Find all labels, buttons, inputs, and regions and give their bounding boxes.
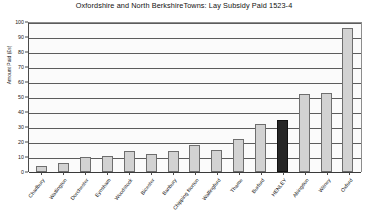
bar-slot	[53, 23, 75, 172]
y-tick-label: 70	[18, 64, 24, 70]
bar-slot	[206, 23, 228, 172]
bar[interactable]	[58, 163, 69, 172]
x-tick-mark	[283, 172, 284, 175]
bar[interactable]	[255, 124, 266, 172]
bar-slot	[118, 23, 140, 172]
bar[interactable]	[80, 157, 91, 172]
x-tick-label: Bicester	[139, 177, 156, 196]
x-tick-label: Eynsham	[93, 177, 111, 198]
x-tick-mark	[195, 172, 196, 175]
x-tick-label: Charlbury	[27, 177, 46, 199]
bar[interactable]	[299, 94, 310, 172]
x-tick-mark	[151, 172, 152, 175]
x-tick-mark	[349, 172, 350, 175]
bar[interactable]	[211, 150, 222, 173]
x-tick-label: Abingdon	[291, 177, 309, 198]
x-label-slot: Wallingford	[206, 176, 228, 217]
y-tick-label: 60	[18, 79, 24, 85]
x-tick-label: Burford	[250, 177, 265, 194]
x-tick-mark	[129, 172, 130, 175]
y-tick-label: 90	[18, 34, 24, 40]
x-tick-label: Witney	[317, 177, 332, 193]
bar-slot	[228, 23, 250, 172]
y-tick-label: 10	[18, 154, 24, 160]
y-tick-label: 40	[18, 109, 24, 115]
x-tick-mark	[41, 172, 42, 175]
y-tick-label: 50	[18, 94, 24, 100]
x-label-slot: Abingdon	[294, 176, 316, 217]
bar-slot	[337, 23, 359, 172]
x-tick-mark	[217, 172, 218, 175]
x-tick-mark	[261, 172, 262, 175]
x-label-slot: Thame	[228, 176, 250, 217]
bar[interactable]	[321, 93, 332, 173]
y-tick-label: 80	[18, 49, 24, 55]
bar[interactable]	[124, 151, 135, 172]
x-tick-mark	[107, 172, 108, 175]
bar-slot	[250, 23, 272, 172]
bar-slot	[293, 23, 315, 172]
x-tick-mark	[239, 172, 240, 175]
x-tick-mark	[173, 172, 174, 175]
x-tick-label: Oxford	[339, 177, 354, 193]
x-label-slot: HENLEY	[272, 176, 294, 217]
bar[interactable]	[189, 145, 200, 172]
chart-container: Oxfordshire and North BerkshireTowns: La…	[0, 0, 368, 217]
x-label-slot: Oxford	[338, 176, 360, 217]
bar-slot	[31, 23, 53, 172]
x-tick-mark	[85, 172, 86, 175]
y-tick-label: 30	[18, 124, 24, 130]
bar-slot	[271, 23, 293, 172]
x-axis-labels: CharlburyWatlingtonDorchesterEynshamWood…	[28, 176, 362, 217]
x-label-slot: Burford	[250, 176, 272, 217]
x-tick-label: Banbury	[161, 177, 178, 196]
chart-title: Oxfordshire and North BerkshireTowns: La…	[0, 1, 368, 10]
y-axis: 0102030405060708090100	[0, 0, 28, 194]
bar[interactable]	[233, 139, 244, 172]
y-tick-label: 20	[18, 139, 24, 145]
x-label-slot: Bicester	[140, 176, 162, 217]
x-tick-mark	[305, 172, 306, 175]
bar-series	[29, 23, 361, 172]
bar-slot	[315, 23, 337, 172]
x-tick-mark	[327, 172, 328, 175]
x-tick-mark	[63, 172, 64, 175]
bar[interactable]	[342, 28, 353, 172]
x-label-slot: Woodstock	[118, 176, 140, 217]
y-tick-label: 100	[15, 19, 24, 25]
bar[interactable]	[146, 154, 157, 172]
bar[interactable]	[102, 156, 113, 173]
bar-slot	[97, 23, 119, 172]
x-label-slot: Dorchester	[74, 176, 96, 217]
bar-slot	[184, 23, 206, 172]
x-label-slot: Witney	[316, 176, 338, 217]
bar-slot	[75, 23, 97, 172]
x-tick-label: HENLEY	[270, 177, 288, 197]
bar[interactable]	[168, 151, 179, 172]
bar-highlighted[interactable]	[277, 120, 288, 173]
y-tick-label: 0	[21, 169, 24, 175]
bar-slot	[162, 23, 184, 172]
plot-area	[28, 22, 362, 172]
x-tick-label: Thame	[229, 177, 244, 194]
bar-slot	[140, 23, 162, 172]
y-axis-title: Amount Paid (£s)	[6, 30, 12, 100]
